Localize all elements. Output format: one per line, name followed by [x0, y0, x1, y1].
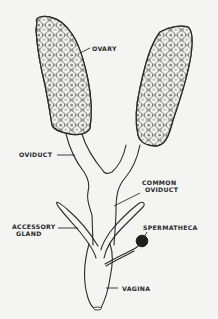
svg-text:SPERMATHECA: SPERMATHECA: [143, 224, 198, 231]
vagina: [85, 244, 113, 310]
reproductive-system-diagram: OVARY OVIDUCT COMMON OVIDUCT ACCESSORY G…: [0, 0, 218, 319]
label-spermatheca: SPERMATHECA: [143, 224, 198, 237]
svg-text:OVIDUCT: OVIDUCT: [145, 186, 179, 193]
svg-text:OVIDUCT: OVIDUCT: [19, 151, 53, 158]
ovary-right: [132, 22, 197, 150]
svg-text:GLAND: GLAND: [16, 230, 42, 237]
accessory-gland-left: [57, 202, 98, 258]
label-ovary: OVARY: [80, 45, 117, 53]
label-accessory-gland: ACCESSORY GLAND: [12, 223, 78, 237]
svg-text:VAGINA: VAGINA: [122, 285, 150, 292]
accessory-gland-right: [101, 202, 144, 258]
label-vagina: VAGINA: [106, 285, 150, 292]
ovary-left: [30, 14, 95, 139]
svg-text:ACCESSORY: ACCESSORY: [12, 223, 56, 230]
label-oviduct: OVIDUCT: [19, 151, 75, 158]
svg-text:OVARY: OVARY: [92, 45, 117, 52]
svg-text:COMMON: COMMON: [142, 179, 176, 186]
label-common-oviduct: COMMON OVIDUCT: [114, 179, 179, 206]
